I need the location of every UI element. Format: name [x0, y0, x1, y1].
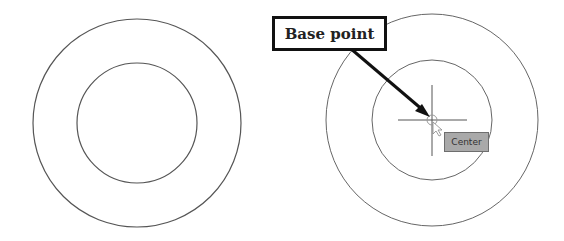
left-outer-circle [33, 19, 241, 227]
base-point-callout: Base point [272, 16, 387, 51]
center-snap-tooltip: Center [444, 132, 489, 152]
callout-arrow [350, 48, 430, 117]
left-inner-circle [77, 63, 197, 183]
mouse-pointer-icon [433, 122, 442, 136]
left-concentric-circles [33, 19, 241, 227]
